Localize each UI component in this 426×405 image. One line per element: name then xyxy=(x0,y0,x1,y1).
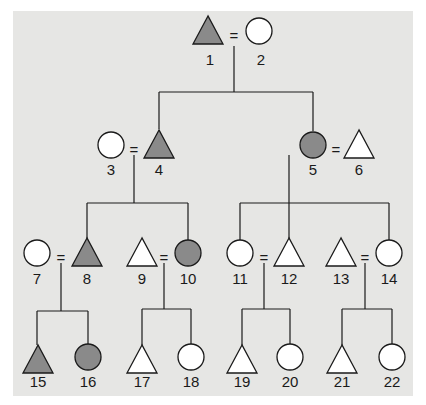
affected-male-triangle-icon xyxy=(193,16,223,44)
affected-female-circle-icon xyxy=(175,240,201,266)
mating-equals-symbol: = xyxy=(57,249,66,266)
individual-number-label: 21 xyxy=(334,373,351,390)
individual-number-label: 13 xyxy=(333,270,350,287)
female-circle-icon xyxy=(246,18,272,44)
female-circle-icon xyxy=(24,240,50,266)
affected-female-circle-icon xyxy=(300,132,326,158)
individual-number-label: 11 xyxy=(232,270,248,287)
individual-number-label: 10 xyxy=(180,270,197,287)
individual-number-label: 9 xyxy=(138,270,146,287)
female-circle-icon xyxy=(178,344,204,370)
individual-number-label: 17 xyxy=(134,373,151,390)
affected-female-circle-icon xyxy=(75,344,101,370)
individual-number-label: 14 xyxy=(381,270,398,287)
mating-equals-symbol: = xyxy=(230,27,239,44)
female-circle-icon xyxy=(98,132,124,158)
male-triangle-icon xyxy=(344,130,374,158)
male-triangle-icon xyxy=(274,238,304,266)
individual-number-label: 5 xyxy=(309,161,317,178)
affected-male-triangle-icon xyxy=(23,345,53,373)
individual-number-label: 19 xyxy=(234,373,251,390)
male-triangle-icon xyxy=(127,238,157,266)
male-triangle-icon xyxy=(326,238,356,266)
mating-equals-symbol: = xyxy=(332,141,341,158)
connector-lines xyxy=(37,46,392,345)
individual-number-label: 2 xyxy=(257,51,265,68)
female-circle-icon xyxy=(379,344,405,370)
individual-number-label: 15 xyxy=(30,373,47,390)
male-triangle-icon xyxy=(127,345,157,373)
affected-male-triangle-icon xyxy=(72,238,102,266)
individual-number-label: 4 xyxy=(155,161,163,178)
mating-equals-symbol: = xyxy=(160,249,169,266)
individual-number-label: 3 xyxy=(107,161,115,178)
mating-equals-symbol: = xyxy=(361,249,370,266)
individual-number-label: 8 xyxy=(83,270,91,287)
female-circle-icon xyxy=(227,240,253,266)
individual-number-label: 18 xyxy=(183,373,200,390)
female-circle-icon xyxy=(376,240,402,266)
individual-number-label: 20 xyxy=(282,373,299,390)
affected-male-triangle-icon xyxy=(144,130,174,158)
individual-number-label: 6 xyxy=(355,161,363,178)
pedigree-chart: ======= 12345678910111213141516171819202… xyxy=(0,0,426,405)
mating-equals-symbol: = xyxy=(260,249,269,266)
individual-number-label: 12 xyxy=(281,270,298,287)
individual-labels: 12345678910111213141516171819202122 xyxy=(30,51,401,390)
mating-equals-symbol: = xyxy=(130,141,139,158)
individual-number-label: 7 xyxy=(33,270,41,287)
individual-number-label: 22 xyxy=(384,373,401,390)
individuals xyxy=(23,16,405,373)
male-triangle-icon xyxy=(227,345,257,373)
female-circle-icon xyxy=(277,344,303,370)
individual-number-label: 16 xyxy=(80,373,97,390)
male-triangle-icon xyxy=(327,345,357,373)
individual-number-label: 1 xyxy=(206,51,214,68)
